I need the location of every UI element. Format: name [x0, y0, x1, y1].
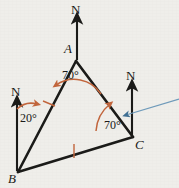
vertex-label-a: A — [64, 42, 72, 55]
highlight-line-group — [126, 99, 179, 115]
north-label-a: N — [71, 3, 80, 16]
figure-canvas — [0, 0, 179, 188]
angle-arc-b-path — [17, 103, 37, 109]
north-label-c: N — [126, 69, 135, 82]
angle-label-b: 20° — [20, 112, 37, 124]
vertex-label-b: B — [8, 172, 16, 185]
angle-label-a: 70° — [62, 69, 79, 81]
side-bc — [18, 137, 133, 172]
angle-label-c: 70° — [104, 119, 121, 131]
highlight-line — [126, 99, 179, 115]
geometry-figure-bearings-triangle: A B C N N N 70° 20° 70° — [0, 0, 179, 188]
tick-marks-group — [43, 101, 74, 158]
angle-arc-at-b — [17, 103, 37, 109]
vertex-label-c: C — [135, 138, 144, 151]
north-label-b: N — [11, 85, 20, 98]
